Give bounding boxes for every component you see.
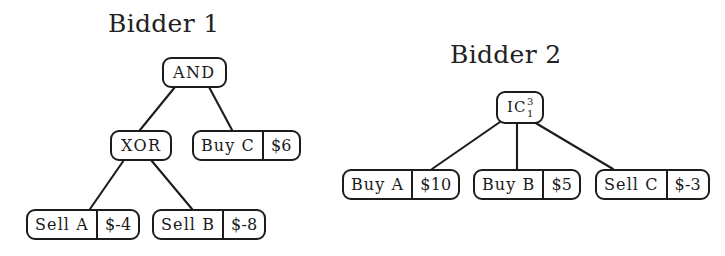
node-buy-c-price: $6 <box>262 132 299 159</box>
node-xor[interactable]: XOR <box>110 130 172 161</box>
node-sell-b[interactable]: Sell B $-8 <box>152 209 266 240</box>
node-buy-a[interactable]: Buy A $10 <box>342 169 460 200</box>
node-buy-b[interactable]: Buy B $5 <box>473 169 581 200</box>
node-sell-a-label: Sell A <box>28 211 96 238</box>
node-and-label: AND <box>164 59 225 86</box>
node-sell-a-price: $-4 <box>96 211 138 238</box>
node-ic-superscript: 3 <box>527 97 533 107</box>
node-ic[interactable]: IC 3 1 <box>496 91 544 124</box>
bidder-1-title: Bidder 1 <box>108 11 219 36</box>
node-sell-b-price: $-8 <box>222 211 264 238</box>
node-ic-subscript: 1 <box>527 109 533 119</box>
node-ic-label: IC 3 1 <box>498 93 542 122</box>
node-buy-a-price: $10 <box>411 171 458 198</box>
edge-and-to-buy-c <box>209 87 232 130</box>
node-ic-base: IC <box>507 100 527 115</box>
edge-xor-to-sell-a <box>90 160 124 209</box>
edge-ic-to-sell-c <box>534 122 613 169</box>
node-buy-a-label: Buy A <box>344 171 411 198</box>
node-buy-c[interactable]: Buy C $6 <box>192 130 301 161</box>
node-buy-b-label: Buy B <box>475 171 542 198</box>
edge-xor-to-sell-b <box>151 160 192 209</box>
node-buy-b-price: $5 <box>542 171 579 198</box>
edge-ic-to-buy-a <box>432 122 500 169</box>
node-sell-c[interactable]: Sell C $-3 <box>595 169 710 200</box>
bid-tree-figure: Bidder 1 Bidder 2 AND XOR Buy C $6 Sell … <box>0 0 725 256</box>
node-sell-c-price: $-3 <box>666 171 708 198</box>
node-sell-c-label: Sell C <box>597 171 666 198</box>
node-sell-a[interactable]: Sell A $-4 <box>26 209 140 240</box>
node-and[interactable]: AND <box>162 57 227 88</box>
bidder-2-title: Bidder 2 <box>450 42 561 67</box>
edge-and-to-xor <box>140 87 175 130</box>
node-xor-label: XOR <box>112 132 170 159</box>
node-buy-c-label: Buy C <box>194 132 262 159</box>
node-sell-b-label: Sell B <box>154 211 222 238</box>
